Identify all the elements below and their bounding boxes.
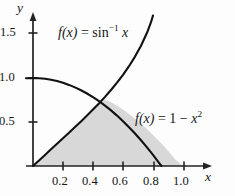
y-tick-label-0-5: 0.5 <box>0 115 15 128</box>
annotation-parabola-one: 1 <box>169 111 176 126</box>
x-axis-label: x <box>205 170 211 184</box>
x-tick-label-1-0: 1.0 <box>173 175 189 188</box>
annotation-parabola-equals: = <box>158 111 166 126</box>
y-axis-arrow <box>30 12 37 21</box>
annotation-arcsin-exponent: −1 <box>109 23 119 33</box>
annotation-arcsin-fn: sin <box>92 25 108 40</box>
annotation-arcsin: f(x) = sin−1 x <box>58 24 128 40</box>
annotation-parabola: f(x) = 1 − x2 <box>135 110 202 126</box>
y-tick-label-1-0: 1.0 <box>0 71 15 84</box>
annotation-parabola-exponent: 2 <box>197 109 202 119</box>
x-tick-label-0-6: 0.6 <box>112 175 128 188</box>
annotation-parabola-fx: f(x) <box>135 111 154 126</box>
math-figure: y x 1.5 1.0 0.5 0.2 0.4 0.6 0.8 1.0 f(x)… <box>0 0 235 196</box>
y-axis-label: y <box>17 1 23 15</box>
annotation-parabola-minus: − <box>180 111 188 126</box>
annotation-arcsin-arg: x <box>122 25 128 40</box>
x-tick-label-0-4: 0.4 <box>82 175 98 188</box>
annotation-arcsin-equals: = <box>81 25 89 40</box>
x-tick-label-0-8: 0.8 <box>143 175 159 188</box>
x-tick-label-0-2: 0.2 <box>52 175 68 188</box>
annotation-arcsin-fx: f(x) <box>58 25 77 40</box>
y-tick-label-1-5: 1.5 <box>0 26 16 39</box>
